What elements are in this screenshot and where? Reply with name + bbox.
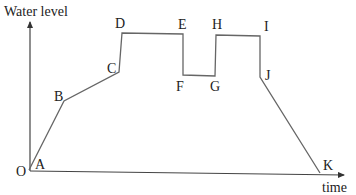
point-label-d: D bbox=[115, 16, 125, 31]
point-label-b: B bbox=[54, 89, 63, 104]
point-label-a: A bbox=[35, 157, 46, 172]
water-level-curve bbox=[29, 33, 320, 173]
x-axis-label: time bbox=[322, 180, 347, 195]
x-axis bbox=[30, 171, 344, 175]
y-axis-label: Water level bbox=[4, 4, 68, 19]
point-label-h: H bbox=[212, 17, 222, 32]
point-label-j: J bbox=[265, 68, 271, 83]
point-label-i: I bbox=[264, 19, 269, 34]
origin-label: O bbox=[16, 164, 26, 179]
point-label-k: K bbox=[323, 158, 333, 173]
point-label-g: G bbox=[210, 79, 220, 94]
point-label-e: E bbox=[178, 17, 187, 32]
point-label-c: C bbox=[107, 61, 116, 76]
point-label-f: F bbox=[176, 79, 184, 94]
water-level-diagram: Water level time O A B C D E F G H I J K bbox=[0, 0, 356, 195]
